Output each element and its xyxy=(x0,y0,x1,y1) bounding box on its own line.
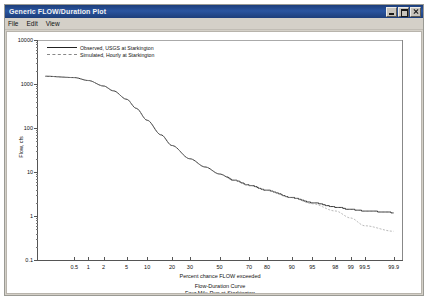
close-icon[interactable] xyxy=(410,7,421,17)
legend-swatch-simulated xyxy=(47,54,77,55)
minimize-icon[interactable] xyxy=(386,7,397,17)
menu-item-view[interactable]: View xyxy=(46,18,60,29)
series-line-observed xyxy=(45,76,393,213)
series-line-simulated xyxy=(45,76,393,231)
flow-duration-plot: Flow, cfs 1000010001001010.1 0.512510203… xyxy=(7,32,421,293)
plot-caption: Flow-Duration Curve Four Mile Run at Sta… xyxy=(37,283,403,294)
window-title: Generic FLOW/Duration Plot xyxy=(9,5,386,18)
menu-item-edit[interactable]: Edit xyxy=(26,18,37,29)
legend-label-simulated: Simulated, Hourly at Starkington xyxy=(80,52,154,58)
caption-line-2: Four Mile Run at Starkington xyxy=(37,290,403,294)
maximize-icon[interactable] xyxy=(398,7,409,17)
series-lines xyxy=(7,32,422,294)
legend-entry-observed: Observed, USGS at Starkington xyxy=(47,44,154,51)
x-axis-label: Percent chance FLOW exceeded xyxy=(37,273,403,279)
menu-bar: File Edit View xyxy=(5,18,423,30)
application-window: Generic FLOW/Duration Plot File Edit Vie… xyxy=(4,4,424,296)
chart-legend: Observed, USGS at Starkington Simulated,… xyxy=(47,44,154,58)
legend-swatch-observed xyxy=(47,47,77,48)
legend-entry-simulated: Simulated, Hourly at Starkington xyxy=(47,51,154,58)
window-controls xyxy=(386,7,421,17)
menu-item-file[interactable]: File xyxy=(8,18,18,29)
legend-label-observed: Observed, USGS at Starkington xyxy=(80,45,154,51)
title-bar[interactable]: Generic FLOW/Duration Plot xyxy=(5,5,423,18)
plot-canvas: Flow, cfs 1000010001001010.1 0.512510203… xyxy=(6,31,422,294)
caption-line-1: Flow-Duration Curve xyxy=(37,283,403,290)
